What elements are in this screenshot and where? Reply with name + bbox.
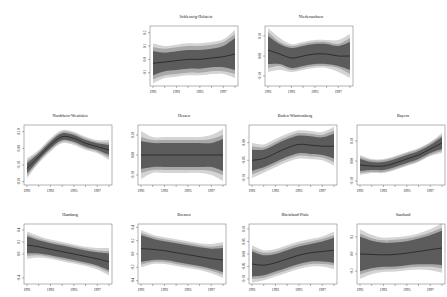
y-tick-label: -0.2 (131, 264, 135, 270)
x-tick-label: 1991 (248, 288, 255, 292)
y-tick-label: 0.00 (131, 152, 135, 158)
inner-confidence-band (27, 133, 109, 173)
y-tick-label: -0.20 (17, 178, 21, 186)
chart-panel: Rheinland-Pfalz-0.10-0.050.000.050.10199… (229, 212, 341, 297)
x-tick-label: 1995 (295, 288, 302, 292)
x-tick-label: 1995 (70, 288, 77, 292)
chart-panel: Niedersachsen-0.100.000.1019911993199519… (245, 14, 357, 110)
y-tick-label: 0.10 (350, 138, 354, 144)
x-tick-label: 1997 (319, 189, 326, 193)
x-tick-label: 1995 (196, 90, 203, 94)
inner-confidence-band (252, 134, 334, 171)
x-tick-label: 1997 (335, 90, 342, 94)
y-tick-label: 0.00 (242, 251, 246, 257)
panel-title: Schleswig-Holstein (150, 14, 242, 19)
x-tick-label: 1993 (47, 288, 54, 292)
x-tick-label: 1995 (403, 189, 410, 193)
x-tick-label: 1995 (184, 189, 191, 193)
y-tick-label: 0.00 (242, 139, 246, 145)
panel-title: Bayern (357, 113, 447, 118)
chart-panel: Saarland-0.20.00.21991199319951997 (337, 212, 447, 297)
y-tick-label: 0.0 (131, 252, 135, 257)
chart-panel: Bremen-0.4-0.20.00.20.41991199319951997 (118, 212, 230, 297)
plot-area: -0.10-0.050.001991199319951997 (229, 113, 341, 209)
x-tick-label: 1991 (149, 90, 156, 94)
chart-panel: Schleswig-Holstein-0.10.00.10.2199119931… (130, 14, 242, 110)
plot-area: -0.10.00.10.21991199319951997 (130, 14, 242, 110)
x-tick-label: 1997 (94, 189, 101, 193)
y-tick-label: -0.4 (131, 278, 135, 284)
x-tick-label: 1995 (311, 90, 318, 94)
y-tick-label: -0.10 (242, 174, 246, 182)
chart-panel: Bayern-0.100.000.101991199319951997 (337, 113, 447, 209)
plot-area: -0.4-0.20.00.20.41991199319951997 (118, 212, 230, 297)
x-tick-label: 1993 (272, 189, 279, 193)
y-tick-label: 0.0 (350, 252, 354, 257)
x-tick-label: 1995 (70, 189, 77, 193)
y-tick-label: -0.10 (17, 161, 21, 169)
plot-area: -0.100.000.101991199319951997 (118, 113, 230, 209)
x-tick-label: 1997 (208, 288, 215, 292)
x-tick-label: 1991 (137, 288, 144, 292)
y-tick-label: -0.4 (17, 275, 21, 281)
x-tick-label: 1993 (288, 90, 295, 94)
y-tick-label: -0.10 (350, 177, 354, 185)
plot-area: -0.10-0.050.000.050.101991199319951997 (229, 212, 341, 297)
plot-area: -0.20.00.21991199319951997 (337, 212, 447, 297)
y-tick-label: 0.0 (17, 252, 21, 257)
y-tick-label: 0.10 (258, 33, 262, 39)
x-tick-label: 1995 (403, 288, 410, 292)
x-tick-label: 1991 (264, 90, 271, 94)
x-tick-label: 1995 (295, 189, 302, 193)
x-tick-label: 1993 (161, 189, 168, 193)
chart-panel: Baden-Württemberg-0.10-0.050.00199119931… (229, 113, 341, 209)
x-tick-label: 1991 (356, 288, 363, 292)
y-tick-label: 0.0 (143, 57, 147, 62)
panel-title: Saarland (357, 212, 447, 217)
chart-panel: Hessen-0.100.000.101991199319951997 (118, 113, 230, 209)
chart-panel: Hamburg-0.40.00.20.41991199319951997 (4, 212, 116, 297)
panel-title: Nordrhein-Westfalen (24, 113, 116, 118)
panel-title: Rheinland-Pfalz (249, 212, 341, 217)
panel-title: Hamburg (24, 212, 116, 217)
x-tick-label: 1997 (220, 90, 227, 94)
y-tick-label: 0.1 (143, 44, 147, 49)
y-tick-label: -0.10 (242, 275, 246, 283)
plot-area: -0.20-0.100.000.101991199319951997 (4, 113, 116, 209)
plot-area: -0.40.00.20.41991199319951997 (4, 212, 116, 297)
x-tick-label: 1993 (272, 288, 279, 292)
x-tick-label: 1991 (23, 189, 30, 193)
y-tick-label: 0.10 (17, 128, 21, 134)
y-tick-label: -0.05 (242, 263, 246, 271)
y-tick-label: 0.2 (17, 240, 21, 245)
y-tick-label: -0.2 (350, 268, 354, 274)
inner-confidence-band (27, 237, 109, 271)
y-tick-label: -0.10 (258, 72, 262, 80)
x-tick-label: 1991 (137, 189, 144, 193)
y-tick-label: 0.2 (131, 238, 135, 243)
x-tick-label: 1991 (248, 189, 255, 193)
y-tick-label: 0.2 (350, 234, 354, 239)
y-tick-label: -0.05 (242, 156, 246, 164)
y-tick-label: 0.4 (17, 228, 21, 233)
x-tick-label: 1993 (173, 90, 180, 94)
x-tick-label: 1993 (380, 288, 387, 292)
plot-area: -0.100.000.101991199319951997 (337, 113, 447, 209)
x-tick-label: 1997 (427, 288, 434, 292)
panel-title: Niedersachsen (265, 14, 357, 19)
x-tick-label: 1997 (94, 288, 101, 292)
y-tick-label: 0.4 (131, 225, 135, 230)
x-tick-label: 1997 (427, 189, 434, 193)
panel-title: Bremen (138, 212, 230, 217)
plot-area: -0.100.000.101991199319951997 (245, 14, 357, 110)
x-tick-label: 1995 (184, 288, 191, 292)
x-tick-label: 1991 (23, 288, 30, 292)
y-tick-label: 0.00 (350, 158, 354, 164)
y-tick-label: 0.10 (131, 132, 135, 138)
x-tick-label: 1991 (356, 189, 363, 193)
panel-title: Hessen (138, 113, 230, 118)
chart-panel: Nordrhein-Westfalen-0.20-0.100.000.10199… (4, 113, 116, 209)
y-tick-label: -0.1 (143, 70, 147, 76)
y-tick-label: 0.00 (17, 145, 21, 151)
y-tick-label: 0.00 (258, 53, 262, 59)
